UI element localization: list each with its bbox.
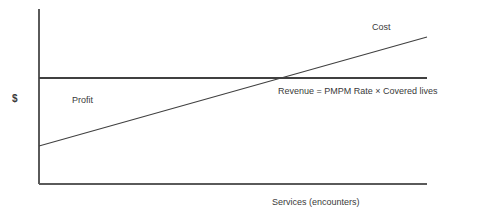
revenue-line-label: Revenue = PMPM Rate × Covered lives bbox=[278, 86, 438, 97]
profit-region-label: Profit bbox=[72, 95, 93, 106]
chart-plot-area bbox=[0, 0, 477, 213]
break-even-chart: $ Services (encounters) Profit Cost Reve… bbox=[0, 0, 477, 213]
y-axis-label: $ bbox=[12, 93, 18, 104]
cost-line-label: Cost bbox=[372, 22, 391, 33]
x-axis-label: Services (encounters) bbox=[272, 197, 360, 208]
